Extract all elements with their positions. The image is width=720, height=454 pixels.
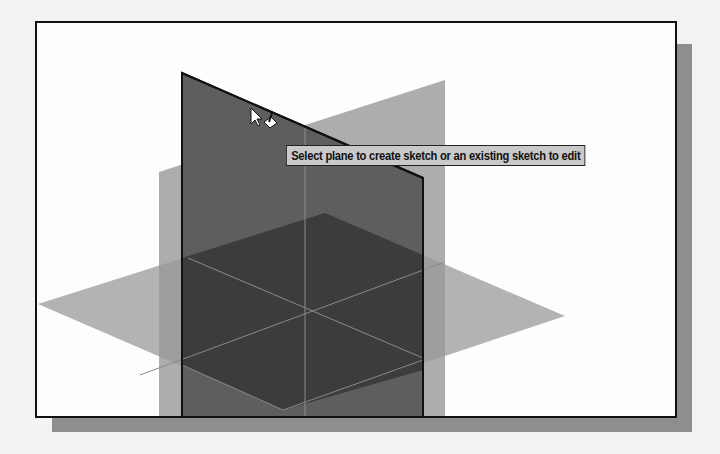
plane-scene[interactable] xyxy=(35,21,677,418)
graphics-viewport[interactable] xyxy=(35,21,677,418)
tooltip: Select plane to create sketch or an exis… xyxy=(286,145,586,166)
